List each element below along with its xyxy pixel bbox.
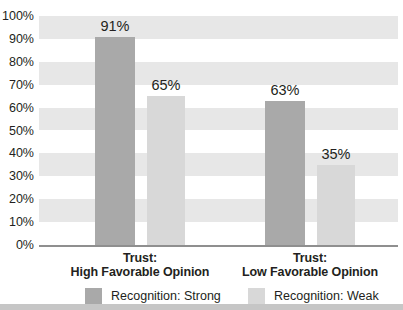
- bar-value-label: 63%: [255, 82, 315, 98]
- group-2-line-2: Low Favorable Opinion: [225, 265, 395, 279]
- legend-item-recognition-strong: Recognition: Strong: [85, 287, 221, 305]
- bar-strong-group-2: [265, 101, 305, 245]
- y-tick-label: 30%: [0, 168, 34, 184]
- y-tick-label: 70%: [0, 77, 34, 93]
- bar-value-label: 35%: [306, 146, 366, 162]
- bar-value-label: 91%: [85, 18, 145, 34]
- y-tick-label: 90%: [0, 31, 34, 47]
- legend: Recognition: Strong Recognition: Weak: [0, 287, 403, 305]
- bar-chart: 100%90%80%70%60%50%40%30%20%10%0% 91%63%…: [0, 0, 403, 310]
- x-axis-label-group-1: Trust: High Favorable Opinion: [55, 251, 225, 279]
- bar-strong-group-1: [95, 37, 135, 245]
- y-tick-label: 80%: [0, 54, 34, 70]
- plot-area: 91%63%65%35%: [39, 16, 398, 247]
- legend-label-weak: Recognition: Weak: [274, 287, 379, 305]
- y-tick-label: 0%: [0, 237, 34, 253]
- legend-item-recognition-weak: Recognition: Weak: [248, 287, 379, 305]
- legend-swatch-strong: [85, 288, 102, 305]
- group-1-line-2: High Favorable Opinion: [55, 265, 225, 279]
- legend-label-strong: Recognition: Strong: [111, 287, 221, 305]
- group-2-line-1: Trust:: [225, 251, 395, 265]
- y-tick-label: 10%: [0, 214, 34, 230]
- x-axis-label-group-2: Trust: Low Favorable Opinion: [225, 251, 395, 279]
- bar-weak-group-1: [147, 96, 185, 245]
- y-tick-label: 40%: [0, 145, 34, 161]
- bar-value-label: 65%: [136, 77, 196, 93]
- bottom-rule: [0, 304, 403, 310]
- legend-swatch-weak: [248, 288, 265, 305]
- group-1-line-1: Trust:: [55, 251, 225, 265]
- y-tick-label: 20%: [0, 191, 34, 207]
- y-tick-label: 100%: [0, 8, 34, 24]
- y-tick-label: 60%: [0, 100, 34, 116]
- bar-weak-group-2: [317, 165, 355, 245]
- y-tick-label: 50%: [0, 123, 34, 139]
